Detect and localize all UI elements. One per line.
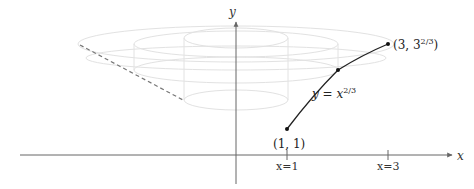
point-mid [336, 68, 340, 72]
point-end [386, 42, 390, 46]
equation-exponent: 2/3 [343, 86, 356, 95]
revolution-diagram: y x x=1 x=3 (1, 1) (3, 32/3) y = x2/3 [0, 0, 474, 189]
end-label-exponent: 2/3 [421, 37, 434, 46]
point-start [285, 127, 289, 131]
end-label-close: ) [433, 38, 438, 52]
equation-base: y = x [311, 87, 343, 101]
x-axis-label: x [457, 149, 464, 163]
svg-text:y = x2/3: y = x2/3 [311, 86, 356, 101]
start-point-label: (1, 1) [273, 137, 305, 151]
svg-text:(3, 32/3): (3, 32/3) [393, 37, 438, 52]
y-axis-label: y [228, 5, 236, 19]
end-point-label: (3, 32/3) [393, 37, 438, 52]
curve-equation-label: y = x2/3 [311, 86, 356, 101]
end-label-base: (3, 3 [393, 38, 421, 52]
tick-label-x3: x=3 [377, 160, 399, 173]
tick-label-x1: x=1 [276, 160, 298, 173]
